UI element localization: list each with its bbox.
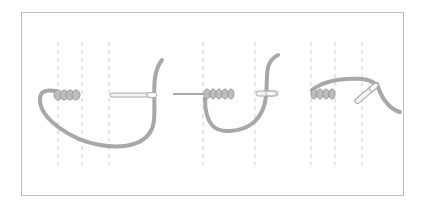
coil-knot-icon bbox=[204, 89, 234, 99]
needle-eye bbox=[147, 93, 157, 98]
needle-icon bbox=[354, 81, 380, 104]
coil-knot-icon bbox=[54, 90, 80, 100]
step-3 bbox=[311, 79, 400, 112]
stitch-illustration bbox=[0, 0, 428, 208]
step-2 bbox=[173, 55, 278, 131]
coil-knot-icon bbox=[311, 89, 335, 99]
needle-eye bbox=[266, 91, 276, 96]
